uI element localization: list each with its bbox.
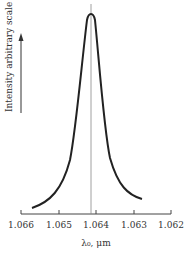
y-axis-label: Intensity arbitrary scale (4, 2, 14, 112)
chart: Intensity arbitrary scale 1.066 1.065 1.… (0, 0, 191, 253)
x-tick-label: 1.062 (158, 220, 184, 230)
x-tick-label: 1.066 (8, 220, 34, 230)
y-axis-arrow (19, 33, 24, 113)
x-tick-label: 1.064 (83, 220, 109, 230)
x-axis-label: λ₀, μm (81, 238, 111, 248)
x-axis (21, 210, 171, 214)
x-tick-label: 1.063 (121, 220, 147, 230)
x-tick-label: 1.065 (46, 220, 72, 230)
line-profile-curve (32, 14, 142, 208)
